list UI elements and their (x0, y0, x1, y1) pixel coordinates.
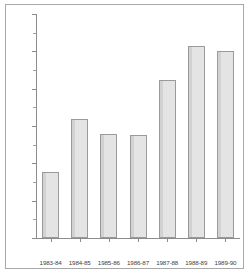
y-tick-minor (33, 107, 36, 108)
bar (71, 119, 88, 238)
bar (217, 51, 234, 238)
y-tick-major (32, 238, 37, 239)
plot-area: 050010001500200025003000 1983-841984-851… (36, 14, 240, 238)
y-tick-minor (33, 70, 36, 71)
x-tick (51, 238, 52, 242)
bar-shade (101, 135, 104, 237)
x-tick-label: 1986-87 (127, 259, 149, 266)
bar (130, 135, 147, 238)
x-tick-label: 1989-90 (214, 259, 236, 266)
bar-shade (160, 81, 163, 237)
x-tick-label: 1987-88 (156, 259, 178, 266)
y-tick-minor (33, 219, 36, 220)
bar-shade (131, 136, 134, 237)
y-tick-major (32, 89, 37, 90)
bar (100, 134, 117, 238)
x-tick-label: 1984-85 (69, 259, 91, 266)
bar-shade (72, 120, 75, 237)
x-tick (109, 238, 110, 242)
x-tick (138, 238, 139, 242)
bar-shade (43, 173, 46, 237)
bar-chart-figure: 050010001500200025003000 1983-841984-851… (0, 0, 250, 275)
bar (188, 46, 205, 238)
x-tick (196, 238, 197, 242)
bar-shade (189, 47, 192, 237)
bar (42, 172, 59, 238)
y-tick-major (32, 201, 37, 202)
y-tick-minor (33, 33, 36, 34)
x-tick-label: 1988-89 (185, 259, 207, 266)
y-tick-minor (33, 145, 36, 146)
bar (159, 80, 176, 238)
x-tick (167, 238, 168, 242)
x-tick-label: 1985-86 (98, 259, 120, 266)
y-tick-major (32, 126, 37, 127)
y-tick-major (32, 163, 37, 164)
bar-shade (218, 52, 221, 237)
y-tick-major (32, 51, 37, 52)
x-tick-label: 1983-84 (40, 259, 62, 266)
y-tick-major (32, 14, 37, 15)
x-tick (225, 238, 226, 242)
x-tick (80, 238, 81, 242)
y-tick-minor (33, 182, 36, 183)
